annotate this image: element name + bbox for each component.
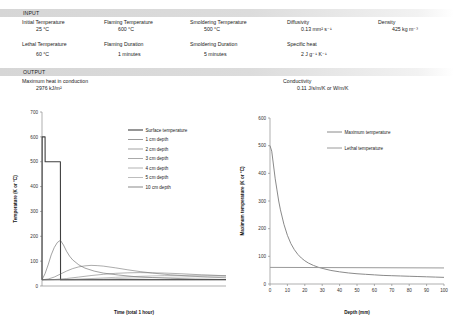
x-axis-title: Time (total 1 hour) <box>114 310 154 315</box>
field-value[interactable]: 2 J g⁻¹ K⁻¹ <box>287 48 327 58</box>
legend-label: 5 cm depth <box>146 175 169 180</box>
field-label: Lethal Temperature <box>22 41 67 48</box>
y-tick-label: 400 <box>30 184 38 189</box>
field-value: 2976 kJ/m² <box>22 85 88 92</box>
field-label: Flaming Duration <box>104 41 144 48</box>
field-value[interactable]: 60 °C <box>22 48 67 58</box>
y-tick-label: 700 <box>30 110 38 115</box>
x-tick-label: 0 <box>269 288 272 293</box>
field-diffusivity: Diffusivity 0.13 mm² s⁻¹ <box>287 19 332 33</box>
output-section-title: OUTPUT <box>20 68 45 76</box>
field-density: Density 425 kg m⁻³ <box>378 19 418 33</box>
series-line <box>42 273 226 280</box>
y-axis-title: Maximum temperature (K or °C) <box>240 166 245 235</box>
temperature-vs-time-plot: 0100200300400500600700Time (total 1 hour… <box>8 104 230 316</box>
x-tick-label: 70 <box>389 288 395 293</box>
field-maximum-heat-in-conduction: Maximum heat in conduction 2976 kJ/m² <box>22 78 88 92</box>
field-value[interactable]: 5 minutes <box>190 48 237 58</box>
field-smoldering-duration: Smoldering Duration 5 minutes <box>190 41 237 58</box>
field-specific-heat: Specific heat 2 J g⁻¹ K⁻¹ <box>287 41 327 58</box>
field-label: Specific heat <box>287 41 327 48</box>
field-label: Smoldering Duration <box>190 41 237 48</box>
field-label: Initial Temperature <box>22 19 65 26</box>
field-label: Smoldering Temperature <box>190 19 247 26</box>
y-tick-label: 600 <box>30 135 38 140</box>
field-value[interactable]: 600 °C <box>104 26 153 33</box>
field-value[interactable]: 0.13 mm² s⁻¹ <box>287 26 332 33</box>
y-tick-label: 0 <box>263 282 266 287</box>
field-value: 0.11 J/s/m/K or W/m/K <box>283 85 349 92</box>
field-label: Flaming Temperature <box>104 19 153 26</box>
y-tick-label: 600 <box>258 116 266 121</box>
y-tick-label: 200 <box>30 234 38 239</box>
field-label: Density <box>378 19 418 26</box>
field-label: Diffusivity <box>287 19 332 26</box>
field-lethal-temperature: Lethal Temperature 60 °C <box>22 41 67 58</box>
field-value[interactable]: 500 °C <box>190 26 247 33</box>
y-tick-label: 100 <box>30 259 38 264</box>
field-value[interactable]: 425 kg m⁻³ <box>378 26 418 33</box>
y-tick-label: 0 <box>35 284 38 289</box>
legend-label: 3 cm depth <box>146 156 169 161</box>
input-section-title: INPUT <box>20 9 39 17</box>
field-value[interactable]: 25 °C <box>22 26 65 33</box>
series-line <box>270 146 444 278</box>
field-initial-temperature: Initial Temperature 25 °C <box>22 19 65 33</box>
input-section-band <box>0 9 454 17</box>
y-tick-label: 300 <box>258 199 266 204</box>
max-temperature-vs-depth-plot: 0100200300400500600010203040506070809010… <box>232 104 452 316</box>
legend-label: Lethal temperature <box>345 146 384 151</box>
y-tick-label: 100 <box>258 254 266 259</box>
legend-label: Surface temperature <box>146 128 188 133</box>
legend-label: 4 cm depth <box>146 166 169 171</box>
x-tick-label: 80 <box>407 288 413 293</box>
legend-label: 2 cm depth <box>146 147 169 152</box>
x-tick-label: 90 <box>424 288 430 293</box>
x-tick-label: 50 <box>354 288 360 293</box>
y-tick-label: 200 <box>258 226 266 231</box>
x-tick-label: 30 <box>320 288 326 293</box>
x-tick-label: 40 <box>337 288 343 293</box>
chart-max-temperature-vs-depth: 0100200300400500600010203040506070809010… <box>232 104 452 316</box>
field-flaming-duration: Flaming Duration 1 minutes <box>104 41 144 58</box>
series-line <box>270 267 444 268</box>
legend-label: 1 cm depth <box>146 137 169 142</box>
series-line <box>42 240 226 280</box>
field-flaming-temperature: Flaming Temperature 600 °C <box>104 19 153 33</box>
x-tick-label: 100 <box>440 288 448 293</box>
legend-label: Maximum temperature <box>345 130 391 135</box>
field-smoldering-temperature: Smoldering Temperature 500 °C <box>190 19 247 33</box>
chart-temperature-vs-time: 0100200300400500600700Time (total 1 hour… <box>8 104 230 316</box>
y-axis-title: Temperature (K or °C) <box>13 175 18 223</box>
x-axis-title: Depth (mm) <box>344 310 370 315</box>
y-tick-label: 500 <box>30 159 38 164</box>
field-label: Maximum heat in conduction <box>22 78 88 85</box>
y-tick-label: 300 <box>30 209 38 214</box>
y-tick-label: 400 <box>258 171 266 176</box>
field-label: Conductivity <box>283 78 349 85</box>
output-section-band <box>0 68 454 76</box>
worksheet: INPUT Initial Temperature 25 °C Flaming … <box>0 0 454 318</box>
x-tick-label: 60 <box>372 288 378 293</box>
y-tick-label: 500 <box>258 143 266 148</box>
field-value[interactable]: 1 minutes <box>104 48 144 58</box>
x-tick-label: 10 <box>285 288 291 293</box>
field-conductivity: Conductivity 0.11 J/s/m/K or W/m/K <box>283 78 349 92</box>
x-tick-label: 20 <box>302 288 308 293</box>
legend-label: 10 cm depth <box>146 185 172 190</box>
